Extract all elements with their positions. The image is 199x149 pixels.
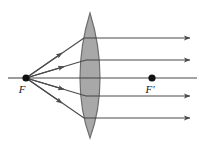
converging-lens: [80, 13, 100, 138]
right-focal-point: [148, 74, 155, 81]
incident-ray-group: [26, 38, 86, 118]
left-focal-point: [22, 74, 29, 81]
incident-ray-1: [26, 38, 84, 78]
incident-ray-2: [26, 60, 86, 78]
incident-ray-4: [26, 78, 86, 96]
lens-body: [80, 13, 100, 138]
emergent-ray-group: [97, 38, 197, 118]
left-focal-label: F: [18, 83, 26, 95]
ray-diagram-canvas: F F′: [0, 0, 199, 149]
right-focal-label: F′: [144, 83, 155, 95]
incident-ray-5: [26, 78, 84, 118]
optics-ray-diagram: F F′: [0, 0, 199, 149]
